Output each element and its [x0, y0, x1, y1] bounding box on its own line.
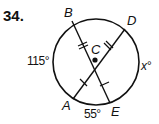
arc-ab-measure: 115° [27, 54, 49, 68]
chord-be [72, 21, 110, 103]
arc-de-measure: x° [141, 59, 151, 73]
point-c-label: C [91, 42, 100, 57]
point-a-label: A [62, 98, 71, 113]
center-point [92, 57, 97, 62]
point-b-label: B [64, 5, 73, 20]
point-d-label: D [127, 13, 136, 28]
arc-ae-measure: 55° [84, 107, 101, 121]
point-e-label: E [111, 104, 120, 119]
